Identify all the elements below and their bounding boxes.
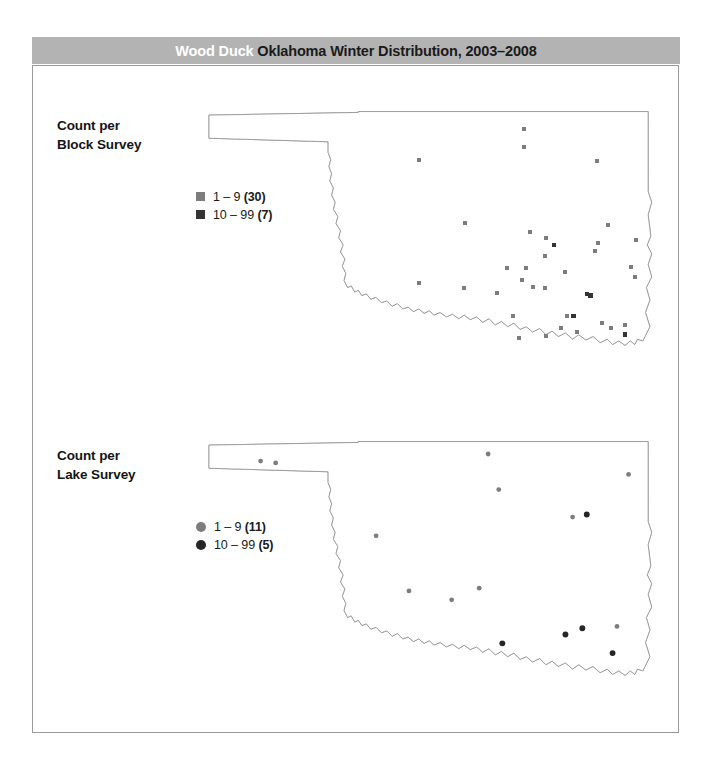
map-marker-circle — [449, 597, 454, 602]
map-marker-square — [511, 314, 515, 318]
map-marker-square — [600, 321, 604, 325]
map-marker-square — [634, 238, 638, 242]
panel-lake-label-line1: Count per — [57, 446, 135, 465]
map-marker-square — [417, 281, 421, 285]
page-title: Wood Duck Oklahoma Winter Distribution, … — [175, 43, 536, 59]
map-marker-circle — [374, 533, 379, 538]
map-marker-square — [609, 326, 613, 330]
map-marker-square — [522, 145, 526, 149]
panel-block-label-line1: Count per — [57, 116, 141, 135]
map-marker-circle — [626, 472, 631, 477]
map-marker-circle — [496, 487, 501, 492]
title-species: Wood Duck — [175, 43, 257, 59]
map-lake-survey — [193, 426, 673, 706]
map-marker-square — [629, 265, 633, 269]
map-marker-square — [463, 221, 467, 225]
map-marker-circle — [273, 460, 278, 465]
figure-title-bar: Wood Duck Oklahoma Winter Distribution, … — [32, 37, 680, 64]
map-marker-square — [544, 236, 548, 240]
map-marker-circle — [579, 625, 585, 631]
map-marker-circle — [407, 588, 412, 593]
map-marker-square — [495, 291, 499, 295]
figure-container: Wood Duck Oklahoma Winter Distribution, … — [32, 37, 680, 734]
map-marker-square — [520, 278, 524, 282]
map-marker-square — [524, 266, 528, 270]
map-marker-square — [595, 159, 599, 163]
map-marker-square — [517, 336, 521, 340]
map-marker-square — [606, 223, 610, 227]
map-marker-circle — [499, 640, 505, 646]
title-subject: Oklahoma Winter Distribution, 2003–2008 — [257, 43, 536, 59]
panel-block-survey: Count per Block Survey 1 – 9 (30) 10 – 9… — [33, 96, 680, 396]
map-marker-square — [559, 326, 563, 330]
map-marker-square — [593, 249, 597, 253]
map-marker-square — [623, 323, 627, 327]
map-marker-circle — [570, 515, 575, 520]
map-marker-square — [522, 127, 526, 131]
oklahoma-outline — [209, 442, 652, 676]
panel-lake-label-line2: Lake Survey — [57, 465, 135, 484]
panel-lake-survey: Count per Lake Survey 1 – 9 (11) 10 – 99… — [33, 426, 680, 726]
map-marker-square — [531, 285, 535, 289]
map-marker-circle — [477, 586, 482, 591]
map-marker-square — [623, 332, 627, 336]
panel-block-label-line2: Block Survey — [57, 135, 141, 154]
map-marker-square — [552, 243, 556, 247]
map-marker-square — [596, 241, 600, 245]
map-marker-square — [565, 314, 569, 318]
map-marker-square — [417, 158, 421, 162]
map-marker-square — [462, 286, 466, 290]
map-marker-square — [575, 330, 579, 334]
map-marker-square — [571, 314, 575, 318]
map-marker-circle — [584, 512, 590, 518]
map-marker-circle — [258, 459, 263, 464]
map-marker-square — [588, 293, 592, 297]
map-marker-square — [543, 254, 547, 258]
map-marker-circle — [610, 650, 616, 656]
oklahoma-outline — [209, 112, 652, 346]
map-marker-square — [633, 275, 637, 279]
map-marker-square — [563, 270, 567, 274]
map-marker-square — [544, 334, 548, 338]
figure-frame: Count per Block Survey 1 – 9 (30) 10 – 9… — [32, 65, 679, 733]
map-marker-circle — [486, 452, 491, 457]
panel-lake-label: Count per Lake Survey — [57, 446, 135, 484]
panel-block-label: Count per Block Survey — [57, 116, 141, 154]
map-marker-square — [528, 230, 532, 234]
map-marker-square — [505, 266, 509, 270]
map-marker-circle — [563, 632, 569, 638]
map-block-survey — [193, 96, 673, 376]
map-marker-square — [543, 286, 547, 290]
map-marker-circle — [615, 624, 620, 629]
